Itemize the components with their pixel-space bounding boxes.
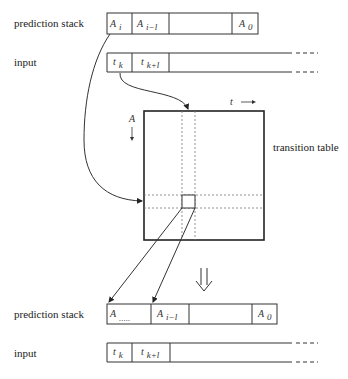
prediction-stack-bottom <box>107 304 277 324</box>
entry-to-stack-arrow-1 <box>109 208 182 302</box>
t-axis-label: t <box>230 96 233 107</box>
prediction-stack-top <box>107 13 258 34</box>
stack-cell-bottom-3: A0 <box>257 308 272 322</box>
stack-cell-top-3: A0 <box>238 18 253 32</box>
double-down-arrow-icon <box>196 268 212 291</box>
stack-cell-top-0: Ai <box>109 18 122 32</box>
stack-cell-top-1: Ai−l <box>136 18 158 32</box>
input-cell-bottom-1: tk+l <box>141 346 160 360</box>
input-label-top: input <box>14 56 37 68</box>
input-cell-bottom-0: tk <box>113 346 124 360</box>
ll1-parser-diagram: prediction stack Ai Ai−l A0 input tk tk+… <box>0 0 348 379</box>
entry-to-stack-arrow-2 <box>153 208 195 302</box>
input-label-bottom: input <box>14 347 37 359</box>
input-tape-bottom <box>107 343 318 362</box>
a-axis-arrow-icon <box>130 127 134 141</box>
table-entry-cell <box>182 195 195 208</box>
a-axis-label: A <box>128 113 136 124</box>
t-axis-arrow-icon <box>241 100 256 104</box>
transition-table-label: transition table <box>273 141 339 153</box>
transition-table <box>144 111 264 240</box>
input-cell-top-0: tk <box>113 56 124 70</box>
stack-cell-bottom-0: A..... <box>109 308 130 323</box>
prediction-stack-label-bottom: prediction stack <box>14 308 84 320</box>
prediction-stack-label-top: prediction stack <box>14 17 84 29</box>
input-tape-top <box>107 53 318 72</box>
input-to-column-arrow <box>120 73 188 109</box>
stack-cell-bottom-1: Ai−l <box>156 308 178 322</box>
input-cell-top-1: tk+l <box>141 56 160 70</box>
